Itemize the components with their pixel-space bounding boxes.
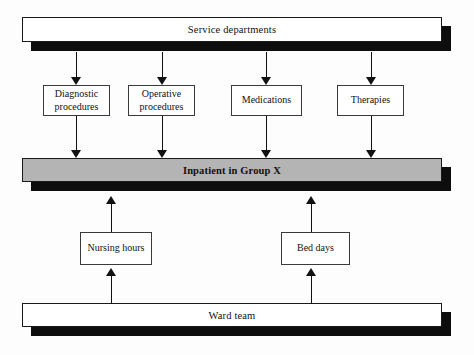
arrow-ward-to-nursing xyxy=(106,268,117,304)
arrow-therapies-to-inpatient-head xyxy=(366,150,376,158)
bar-face-ward-team: Ward team xyxy=(22,303,442,327)
arrow-service-to-diagnostic-shaft xyxy=(76,52,77,77)
bar-face-service-departments: Service departments xyxy=(22,17,442,42)
arrow-ward-to-beddays xyxy=(306,268,317,304)
arrow-beddays-to-inpatient-head xyxy=(306,196,316,204)
arrow-nursing-to-inpatient-head xyxy=(106,196,116,204)
arrow-ward-to-nursing-head xyxy=(106,268,116,276)
node-label-diagnostic-procedures: Diagnostic procedures xyxy=(55,88,99,112)
arrow-service-to-medications-head xyxy=(261,77,271,85)
arrow-operative-to-inpatient-head xyxy=(157,150,167,158)
bar-label-inpatient-group-x: Inpatient in Group X xyxy=(183,165,281,176)
arrow-service-to-operative xyxy=(157,52,168,85)
node-label-therapies: Therapies xyxy=(351,94,390,106)
arrow-service-to-medications xyxy=(261,52,272,85)
node-operative-procedures: Operative procedures xyxy=(128,85,195,116)
arrow-ward-to-beddays-shaft xyxy=(311,276,312,304)
arrow-service-to-therapies-shaft xyxy=(371,52,372,77)
bar-inpatient-group-x: Inpatient in Group X xyxy=(22,158,442,191)
arrow-beddays-to-inpatient-shaft xyxy=(311,204,312,232)
arrow-nursing-to-inpatient-shaft xyxy=(111,204,112,232)
arrow-medications-to-inpatient-head xyxy=(261,150,271,158)
arrow-service-to-operative-head xyxy=(157,77,167,85)
arrow-service-to-therapies-head xyxy=(366,77,376,85)
bar-face-inpatient-group-x: Inpatient in Group X xyxy=(22,158,442,182)
bar-service-departments: Service departments xyxy=(22,17,442,51)
node-label-operative-procedures: Operative procedures xyxy=(140,88,184,112)
node-label-medications: Medications xyxy=(242,94,291,106)
arrow-ward-to-beddays-head xyxy=(306,268,316,276)
node-label-bed-days: Bed days xyxy=(297,242,334,254)
node-label-nursing-hours: Nursing hours xyxy=(88,242,145,254)
node-nursing-hours: Nursing hours xyxy=(80,232,152,265)
arrow-medications-to-inpatient xyxy=(261,116,272,158)
arrow-service-to-medications-shaft xyxy=(266,52,267,77)
node-bed-days: Bed days xyxy=(281,232,350,265)
bar-label-service-departments: Service departments xyxy=(188,24,276,35)
arrow-service-to-diagnostic-head xyxy=(71,77,81,85)
arrow-operative-to-inpatient xyxy=(157,116,168,158)
arrow-service-to-therapies xyxy=(366,52,377,85)
arrow-therapies-to-inpatient-shaft xyxy=(371,116,372,150)
node-medications: Medications xyxy=(231,85,302,116)
arrow-service-to-diagnostic xyxy=(71,52,82,85)
node-diagnostic-procedures: Diagnostic procedures xyxy=(43,85,110,116)
arrow-diagnostic-to-inpatient xyxy=(71,116,82,158)
node-therapies: Therapies xyxy=(337,85,404,116)
arrow-medications-to-inpatient-shaft xyxy=(266,116,267,150)
arrow-operative-to-inpatient-shaft xyxy=(162,116,163,150)
arrow-nursing-to-inpatient xyxy=(106,196,117,232)
arrow-diagnostic-to-inpatient-head xyxy=(71,150,81,158)
arrow-beddays-to-inpatient xyxy=(306,196,317,232)
arrow-ward-to-nursing-shaft xyxy=(111,276,112,304)
arrow-diagnostic-to-inpatient-shaft xyxy=(76,116,77,150)
bar-label-ward-team: Ward team xyxy=(209,310,256,321)
arrow-therapies-to-inpatient xyxy=(366,116,377,158)
arrow-service-to-operative-shaft xyxy=(162,52,163,77)
diagram-canvas: Service departmentsInpatient in Group XW… xyxy=(0,0,474,355)
bar-ward-team: Ward team xyxy=(22,303,442,336)
